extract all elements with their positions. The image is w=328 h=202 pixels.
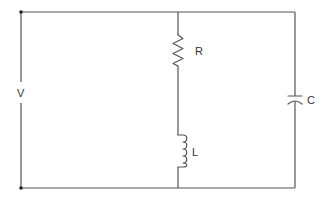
- rlc-circuit-diagram: V R L C: [0, 0, 328, 202]
- resistor-icon: [173, 35, 183, 66]
- capacitor-label: C: [307, 94, 315, 106]
- inductor-icon: [178, 135, 187, 167]
- source-label: V: [17, 87, 25, 99]
- resistor-label: R: [195, 45, 203, 57]
- inductor-label: L: [192, 146, 198, 158]
- source-terminal-top: [19, 10, 23, 14]
- source-terminal-bottom: [19, 186, 23, 190]
